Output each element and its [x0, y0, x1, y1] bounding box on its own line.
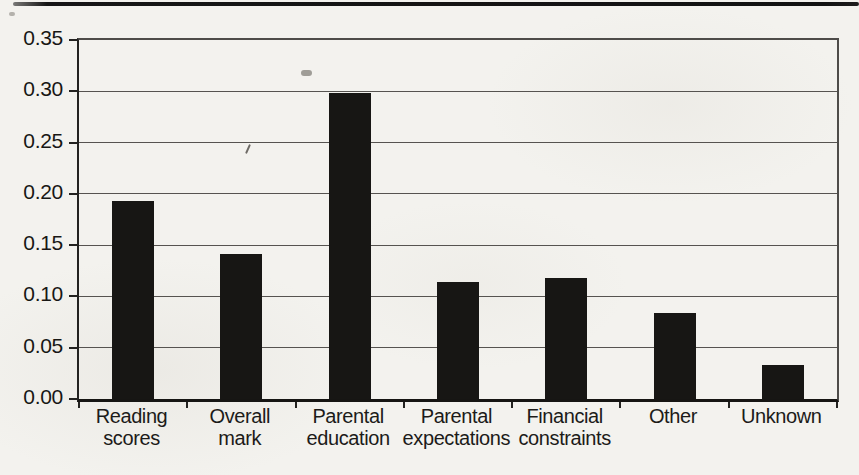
x-axis-label-line: Unknown [727, 405, 836, 427]
y-axis-label-0.10: 0.10 [8, 282, 63, 306]
y-tick-0.35 [69, 39, 77, 41]
y-tick-0.00 [69, 398, 77, 400]
y-tick-0.15 [69, 244, 77, 246]
x-axis-label-parental-education: Parentaleducation [294, 405, 403, 449]
y-axis-label-0.25: 0.25 [8, 129, 63, 153]
y-axis-label-0.15: 0.15 [8, 231, 63, 255]
x-axis-label-line: mark [185, 427, 294, 449]
scan-speck-dot [9, 12, 15, 16]
x-axis-label-line: scores [77, 427, 186, 449]
y-axis-label-0.35: 0.35 [8, 26, 63, 50]
x-axis-label-financial-constraints: Financialconstraints [510, 405, 619, 449]
gridline-0.15 [79, 245, 837, 246]
bar-parental-expectations [437, 282, 479, 399]
scanned-page: 0.000.050.100.150.200.250.300.35 Reading… [0, 0, 859, 475]
y-tick-0.30 [69, 90, 77, 92]
y-tick-0.20 [69, 193, 77, 195]
bar-financial-constraints [545, 278, 587, 399]
y-axis-label-0.30: 0.30 [8, 77, 63, 101]
x-axis-label-line: Other [618, 405, 727, 427]
plot-area [77, 38, 839, 402]
y-axis-label-0.00: 0.00 [8, 385, 63, 409]
bar-other [654, 313, 696, 399]
x-axis-label-other: Other [618, 405, 727, 427]
x-axis-label-line: Parental [402, 405, 511, 427]
x-axis-label-line: Financial [510, 405, 619, 427]
x-axis-label-line: Reading [77, 405, 186, 427]
gridline-0.30 [79, 91, 837, 92]
y-tick-0.10 [69, 295, 77, 297]
x-axis-label-overall-mark: Overallmark [185, 405, 294, 449]
y-tick-0.05 [69, 347, 77, 349]
x-axis-label-line: education [294, 427, 403, 449]
x-axis-label-parental-expectations: Parentalexpectations [402, 405, 511, 449]
scan-artifact-top-line [13, 2, 859, 6]
bar-overall-mark [220, 254, 262, 399]
bar-parental-education [329, 93, 371, 399]
x-axis-label-reading-scores: Readingscores [77, 405, 186, 449]
bar-unknown [762, 365, 804, 399]
x-axis-label-line: constraints [510, 427, 619, 449]
gridline-0.20 [79, 193, 837, 194]
y-axis-label-0.20: 0.20 [8, 180, 63, 204]
x-axis-label-unknown: Unknown [727, 405, 836, 427]
x-axis-label-line: Parental [294, 405, 403, 427]
bar-reading-scores [112, 201, 154, 399]
y-tick-0.25 [69, 142, 77, 144]
y-axis-label-0.05: 0.05 [8, 334, 63, 358]
gridline-0.25 [79, 142, 837, 143]
x-tick-7 [836, 402, 838, 408]
x-axis-label-line: Overall [185, 405, 294, 427]
x-axis-label-line: expectations [402, 427, 511, 449]
